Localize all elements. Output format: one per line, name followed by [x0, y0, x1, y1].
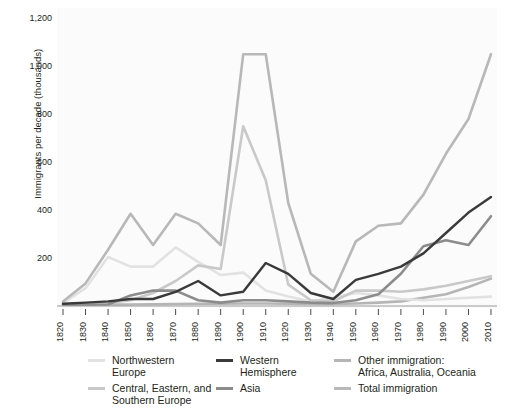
legend-item-label: Other immigration: Africa, Australia, Oc…	[358, 354, 476, 378]
legend-swatch-icon	[88, 387, 105, 390]
immigration-line-chart-figure: Immigrants per decade (thousands) 200400…	[0, 0, 507, 413]
legend-swatch-icon	[334, 387, 351, 390]
x-tick-label: 1930	[303, 322, 313, 342]
legend-swatch-icon	[216, 387, 233, 390]
x-tick-label: 1940	[325, 322, 335, 342]
x-tick-label: 1920	[280, 322, 290, 342]
legend-swatch-icon	[88, 359, 105, 362]
x-tick-label: 1860	[145, 322, 155, 342]
chart-legend: Northwestern EuropeWestern HemisphereOth…	[0, 352, 507, 413]
legend-item[interactable]: Other immigration: Africa, Australia, Oc…	[334, 354, 503, 382]
legend-swatch-icon	[216, 359, 233, 362]
legend-item-label: Western Hemisphere	[240, 354, 297, 378]
legend-item[interactable]: Northwestern Europe	[88, 354, 216, 382]
x-tick-label: 1970	[393, 322, 403, 342]
x-tick-label: 2000	[460, 322, 470, 342]
x-tick-label: 1870	[168, 322, 178, 342]
x-tick-label: 1950	[348, 322, 358, 342]
legend-item-label: Northwestern Europe	[112, 354, 174, 378]
x-tick-label: 1910	[258, 322, 268, 342]
chart-canvas: 2004006008001,0001,200182018301840185018…	[0, 0, 507, 345]
x-tick-label: 1880	[190, 322, 200, 342]
x-tick-label: 1890	[213, 322, 223, 342]
legend-item[interactable]: Western Hemisphere	[216, 354, 334, 382]
x-tick-label: 1960	[370, 322, 380, 342]
legend-item[interactable]: Total immigration	[334, 382, 503, 410]
x-tick-label: 1980	[415, 322, 425, 342]
legend-item-label: Asia	[240, 382, 260, 394]
x-tick-label: 1830	[78, 322, 88, 342]
x-tick-label: 1850	[123, 322, 133, 342]
legend-item[interactable]: Central, Eastern, and Southern Europe	[88, 382, 216, 410]
legend-item-label: Total immigration	[358, 382, 437, 394]
x-tick-label: 1820	[55, 322, 65, 342]
legend-item[interactable]: Asia	[216, 382, 334, 410]
y-tick-label: 200	[37, 253, 52, 263]
legend-item-label: Central, Eastern, and Southern Europe	[112, 382, 211, 406]
x-tick-label: 1990	[438, 322, 448, 342]
y-tick-label: 1,200	[29, 13, 52, 23]
plot-area: Immigrants per decade (thousands) 200400…	[0, 0, 507, 345]
legend-swatch-icon	[334, 359, 351, 362]
x-tick-label: 1900	[235, 322, 245, 342]
x-tick-label: 2010	[483, 322, 493, 342]
x-tick-label: 1840	[100, 322, 110, 342]
y-axis-label: Immigrants per decade (thousands)	[32, 39, 44, 209]
